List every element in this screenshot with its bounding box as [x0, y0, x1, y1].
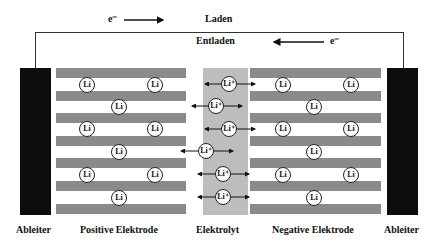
li-ion-icon: Li: [79, 167, 95, 183]
label-right-collector: Ableiter: [384, 224, 419, 235]
label-positive-electrode: Positive Elektrode: [80, 224, 158, 235]
li-ion-icon: Li: [343, 167, 359, 183]
li-ion-icon: Li: [147, 121, 163, 137]
li-ion-icon: Li: [111, 190, 127, 206]
li-ion-icon: Li: [306, 99, 322, 115]
li-plus-ion-icon: Li⁺: [221, 76, 237, 92]
li-plus-ion-icon: Li⁺: [215, 166, 231, 182]
li-plus-ion-icon: Li⁺: [221, 121, 237, 137]
li-ion-icon: Li: [343, 121, 359, 137]
li-ion-icon: Li: [306, 190, 322, 206]
li-ion-icon: Li: [343, 77, 359, 93]
li-ion-icon: Li: [147, 167, 163, 183]
li-plus-ion-icon: Li⁺: [198, 143, 214, 159]
li-ion-icon: Li: [111, 144, 127, 160]
li-ion-icon: Li: [275, 167, 291, 183]
label-left-collector: Ableiter: [16, 224, 51, 235]
li-ion-icon: Li: [111, 99, 127, 115]
ion-arrows-layer: [0, 0, 438, 249]
label-electrolyte: Elektrolyt: [196, 224, 239, 235]
li-plus-ion-icon: Li⁺: [215, 189, 231, 205]
li-ion-icon: Li: [275, 77, 291, 93]
label-negative-electrode: Negative Elektrode: [272, 224, 354, 235]
li-ion-icon: Li: [275, 121, 291, 137]
li-ion-icon: Li: [306, 144, 322, 160]
li-ion-icon: Li: [147, 77, 163, 93]
li-ion-icon: Li: [79, 77, 95, 93]
li-ion-icon: Li: [79, 121, 95, 137]
li-plus-ion-icon: Li⁺: [208, 98, 224, 114]
